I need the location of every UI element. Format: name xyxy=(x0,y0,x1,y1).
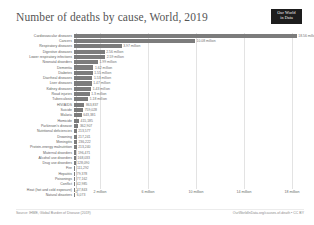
bar-category-label: HIV/AIDS xyxy=(0,103,74,107)
bar-category-label: Fire xyxy=(0,166,74,170)
chart-footer: Source: IHME, Global Burden of Disease (… xyxy=(16,211,304,217)
plot-area: Cardiovascular diseases18.56 millionCanc… xyxy=(0,33,314,189)
bar-category-label: Cancers xyxy=(0,39,74,43)
bar[interactable] xyxy=(74,39,195,43)
bar-category-label: Parkinson's disease xyxy=(0,124,74,128)
x-axis-tick-label: 6 million xyxy=(141,190,154,195)
x-axis-tick-label: 2 million xyxy=(93,190,106,195)
bar-category-label: Poisonings xyxy=(0,177,74,181)
bar-value-label: 1.55 million xyxy=(93,71,112,75)
x-axis: 02 million6 million10 million14 million1… xyxy=(0,190,314,200)
x-axis-tick-label: 18 million xyxy=(284,190,299,195)
bar[interactable] xyxy=(74,55,105,59)
bar-category-label: Dementia xyxy=(0,66,74,70)
x-axis-tick-label: 14 million xyxy=(236,190,251,195)
bar[interactable] xyxy=(74,113,82,117)
x-axis-tick-label: 0 xyxy=(76,190,78,195)
bar-category-label: Diarrheal diseases xyxy=(0,76,74,80)
bar-category-label: Conflict xyxy=(0,182,74,186)
bar-value-label: 111,292 xyxy=(75,166,88,170)
bar-value-label: 1.62 million xyxy=(93,66,112,70)
bar[interactable] xyxy=(74,81,92,85)
bar-value-label: 362,907 xyxy=(78,124,92,128)
bar-value-label: 77,162 xyxy=(75,177,87,181)
bar-category-label: Tuberculosis xyxy=(0,97,74,101)
owid-logo[interactable]: Our World in Data xyxy=(271,9,302,24)
bar[interactable] xyxy=(74,65,93,69)
bar-category-label: Drug use disorders xyxy=(0,161,74,165)
bar[interactable] xyxy=(74,34,297,38)
bar[interactable] xyxy=(74,87,91,91)
bar-value-label: 213,240 xyxy=(77,145,91,149)
bar-category-label: Alcohol use disorders xyxy=(0,156,74,160)
bar-value-label: 1.53 million xyxy=(92,76,111,80)
bar[interactable] xyxy=(74,71,93,75)
bar-category-label: Kidney diseases xyxy=(0,87,74,91)
bar-category-label: Maternal disorders xyxy=(0,151,74,155)
bar-category-label: Cardiovascular diseases xyxy=(0,34,74,38)
bar-value-label: 759,028 xyxy=(83,108,97,112)
bar-value-label: 128,090 xyxy=(76,161,90,165)
bar[interactable] xyxy=(74,108,83,112)
chart-card: Number of deaths by cause, World, 2019 O… xyxy=(0,0,314,225)
bar-category-label: Lower respiratory infections xyxy=(0,55,74,59)
bar-category-label: Homicide xyxy=(0,119,74,123)
bar-category-label: Protein-energy malnutrition xyxy=(0,145,74,149)
bar-value-label: 1.43 million xyxy=(91,87,110,91)
bar-value-label: 2.59 million xyxy=(105,55,124,59)
chart-header: Number of deaths by cause, World, 2019 O… xyxy=(16,10,306,32)
bar-category-label: Diabetes xyxy=(0,71,74,75)
bar[interactable] xyxy=(74,44,122,48)
bar-category-label: Neonatal disorders xyxy=(0,60,74,64)
bar-value-label: 42,985 xyxy=(75,182,87,186)
bar-category-label: Nutritional deficiencies xyxy=(0,129,74,133)
bar-category-label: Malaria xyxy=(0,113,74,117)
bar-value-label: 1.3 million xyxy=(90,92,107,96)
attribution-note[interactable]: OurWorldInData.org/causes-of-death • CC … xyxy=(233,211,304,216)
bar-value-label: 236,222 xyxy=(77,140,91,144)
bar[interactable] xyxy=(74,50,105,54)
bar-value-label: 18.56 million xyxy=(297,34,314,38)
bar-value-label: 213,577 xyxy=(77,129,91,133)
bar[interactable] xyxy=(74,92,90,96)
bar-value-label: 79,378 xyxy=(75,172,87,176)
bar-value-label: 2.56 million xyxy=(105,50,124,54)
source-note: Source: IHME, Global Burden of Disease (… xyxy=(16,211,91,216)
bar-category-label: Meningitis xyxy=(0,140,74,144)
bar-category-label: Drowning xyxy=(0,135,74,139)
bar-value-label: 3.97 million xyxy=(122,44,141,48)
bar-value-label: 217,241 xyxy=(77,135,91,139)
x-axis-tick-label: 10 million xyxy=(188,190,203,195)
bar-value-label: 168,033 xyxy=(76,156,90,160)
bar-category-label: Respiratory diseases xyxy=(0,44,74,48)
footer-divider xyxy=(16,209,304,210)
bar-category-label: Liver diseases xyxy=(0,81,74,85)
bar-value-label: 1.99 million xyxy=(98,60,117,64)
bar-category-label: Road injuries xyxy=(0,92,74,96)
bar[interactable] xyxy=(74,97,88,101)
owid-logo-line2: in Data xyxy=(271,16,302,21)
page-title: Number of deaths by cause, World, 2019 xyxy=(16,10,306,24)
bar[interactable] xyxy=(74,60,98,64)
bar[interactable] xyxy=(74,103,84,107)
bar-value-label: 196,471 xyxy=(76,151,90,155)
bar-value-label: 643,381 xyxy=(82,113,96,117)
bar-category-label: Suicide xyxy=(0,108,74,112)
bar[interactable] xyxy=(74,76,92,80)
bar-value-label: 863,837 xyxy=(84,103,98,107)
bar-category-label: Hepatitis xyxy=(0,172,74,176)
bar-value-label: 10.08 million xyxy=(195,39,216,43)
bar-value-label: 415,185 xyxy=(79,119,93,123)
bar-value-label: 1.18 million xyxy=(88,97,107,101)
bar-category-label: Digestive diseases xyxy=(0,50,74,54)
bar-rows: Cardiovascular diseases18.56 millionCanc… xyxy=(0,33,314,198)
bar-value-label: 1.47 million xyxy=(92,81,111,85)
